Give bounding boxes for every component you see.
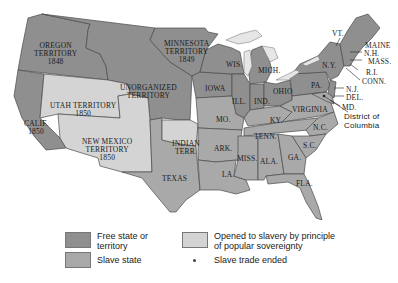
legend-dot-icon [193, 259, 196, 262]
legend-swatch-popular-sovereignty [182, 232, 208, 248]
region-florida [266, 174, 322, 220]
label-wisconsin: WIS. [226, 61, 242, 69]
label-louisiana: LA. [222, 171, 234, 179]
label-south-carolina: S.C. [303, 142, 317, 150]
label-oregon-territory: OREGON TERRITORY 1848 [34, 42, 77, 66]
label-virginia: VIRGINIA [292, 106, 328, 114]
label-texas: TEXAS [162, 175, 187, 183]
label-rhode-island: R.I. [366, 69, 378, 77]
label-unorganized-territory: UNORGANIZED TERRITORY [120, 84, 177, 100]
label-kentucky: KY. [270, 117, 282, 125]
label-missouri: MO. [216, 116, 231, 124]
map-legend: Free state or territory Slave state Open… [0, 220, 398, 283]
label-new-york: N.Y. [322, 62, 336, 70]
label-ohio: OHIO [273, 88, 293, 96]
label-indiana: IND. [254, 98, 270, 106]
label-maryland: MD. [342, 104, 357, 112]
label-connecticut: CONN. [362, 78, 386, 86]
legend-swatch-slave [65, 252, 91, 268]
label-arkansas: ARK. [214, 145, 233, 153]
label-indian-territory: INDIAN TERR. [172, 140, 200, 156]
label-georgia: GA. [288, 154, 301, 162]
label-alabama: ALA. [260, 158, 278, 166]
label-massachusetts: MASS. [368, 58, 391, 66]
label-new-mexico-territory: NEW MEXICO TERRITORY 1850 [82, 138, 132, 162]
label-pennsylvania: PA. [311, 82, 322, 90]
label-tennessee: TENN. [254, 133, 277, 141]
dc-slave-trade-dot [323, 95, 326, 98]
label-illinois: ILL. [232, 98, 246, 106]
label-utah-territory: UTAH TERRITORY 1850 [50, 102, 116, 118]
legend-label-popular-sovereignty: Opened to slavery by principle of popula… [214, 231, 335, 251]
legend-label-free: Free state or territory [97, 231, 148, 251]
label-district-of-columbia: District of Columbia [344, 112, 380, 130]
label-minnesota-territory: MINNESOTA TERRITORY 1849 [164, 40, 209, 64]
label-vermont: VT. [332, 30, 344, 38]
label-north-carolina: N.C. [313, 124, 328, 132]
label-florida: FLA. [296, 180, 313, 188]
legend-swatch-free [65, 232, 91, 248]
label-california: CALIF. 1850 [24, 120, 48, 136]
label-iowa: IOWA [205, 85, 225, 93]
label-michigan: MICH. [258, 67, 280, 75]
label-delaware: DEL. [346, 94, 363, 102]
label-mississippi: MISS. [237, 155, 257, 163]
legend-label-slave-trade-ended: Slave trade ended [214, 255, 287, 265]
legend-label-slave: Slave state [97, 255, 142, 265]
